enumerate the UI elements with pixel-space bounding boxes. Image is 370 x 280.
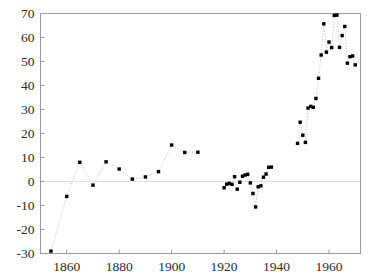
x-tick-label: 1900 (158, 259, 185, 274)
data-point-marker (335, 13, 338, 16)
data-point-marker (131, 177, 134, 180)
data-point-marker (254, 205, 257, 208)
y-tick-label: 30 (21, 102, 35, 117)
data-point-marker (351, 54, 354, 57)
data-point-marker (236, 187, 239, 190)
chart-background (0, 0, 370, 280)
y-tick-label: 0 (28, 174, 35, 189)
data-point-marker (262, 175, 265, 178)
data-point-marker (301, 133, 304, 136)
data-point-marker (249, 181, 252, 184)
data-point-marker (298, 121, 301, 124)
data-point-marker (233, 175, 236, 178)
data-point-marker (238, 181, 241, 184)
y-tick-label: -30 (17, 246, 35, 261)
y-tick-label: -20 (17, 222, 35, 237)
data-point-marker (346, 61, 349, 64)
data-point-marker (312, 106, 315, 109)
data-point-marker (251, 192, 254, 195)
y-tick-label: -10 (17, 198, 35, 213)
data-point-marker (340, 34, 343, 37)
x-tick-label: 1860 (53, 259, 80, 274)
data-point-marker (104, 160, 107, 163)
data-point-marker (230, 183, 233, 186)
data-point-marker (78, 161, 81, 164)
data-point-marker (296, 142, 299, 145)
line-scatter-chart: -30-20-10010203040506070 186018801900192… (0, 0, 370, 280)
data-point-marker (343, 25, 346, 28)
data-point-marker (317, 77, 320, 80)
data-point-marker (270, 165, 273, 168)
data-point-marker (91, 183, 94, 186)
y-tick-label: 60 (21, 30, 35, 45)
x-tick-label: 1920 (211, 259, 238, 274)
y-tick-label: 10 (21, 150, 35, 165)
data-point-marker (196, 151, 199, 154)
data-point-marker (183, 151, 186, 154)
data-point-marker (117, 167, 120, 170)
data-point-marker (325, 50, 328, 53)
y-tick-label: 50 (21, 54, 35, 69)
x-tick-label: 1940 (263, 259, 290, 274)
data-point-marker (259, 184, 262, 187)
data-point-marker (327, 40, 330, 43)
data-point-marker (65, 195, 68, 198)
data-point-marker (314, 97, 317, 100)
data-point-marker (264, 172, 267, 175)
x-tick-label: 1960 (316, 259, 343, 274)
y-tick-label: 70 (21, 6, 35, 21)
data-point-marker (338, 46, 341, 49)
data-point-marker (157, 170, 160, 173)
data-point-marker (304, 141, 307, 144)
data-point-marker (354, 63, 357, 66)
data-point-marker (330, 46, 333, 49)
y-tick-label: 40 (21, 78, 35, 93)
data-point-marker (246, 173, 249, 176)
y-tick-label: 20 (21, 126, 35, 141)
chart-container: -30-20-10010203040506070 186018801900192… (0, 0, 370, 280)
data-point-marker (49, 249, 52, 252)
data-point-marker (170, 143, 173, 146)
data-point-marker (319, 53, 322, 56)
data-point-marker (222, 186, 225, 189)
data-point-marker (322, 22, 325, 25)
data-point-marker (144, 175, 147, 178)
x-tick-label: 1880 (106, 259, 133, 274)
